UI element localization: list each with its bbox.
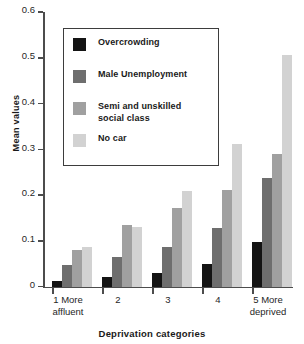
bar[interactable] xyxy=(162,247,172,286)
legend-item-label: Semi and unskilled social class xyxy=(98,101,181,124)
legend-color-swatch xyxy=(73,70,86,83)
bar[interactable] xyxy=(72,250,82,286)
legend-color-swatch xyxy=(73,134,86,147)
y-axis-tick: 0.6 xyxy=(38,11,43,13)
y-axis-tick: 0.2 xyxy=(38,194,43,196)
legend-color-swatch xyxy=(73,102,86,115)
bar[interactable] xyxy=(102,277,112,286)
bar[interactable] xyxy=(232,144,242,286)
bar[interactable] xyxy=(132,227,142,287)
x-axis-title: Deprivation categories xyxy=(0,328,304,339)
y-axis-tick: 0 xyxy=(38,286,43,288)
bar[interactable] xyxy=(52,281,62,286)
bar[interactable] xyxy=(152,273,162,287)
y-axis-tick: 0.1 xyxy=(38,240,43,242)
x-label-line-2: affluent xyxy=(38,306,98,318)
bar[interactable] xyxy=(62,265,72,287)
legend-color-swatch xyxy=(73,38,86,51)
bar[interactable] xyxy=(112,257,122,286)
bar-group xyxy=(252,13,292,287)
y-axis-tick: 0.5 xyxy=(38,57,43,59)
legend-item-label: Male Unemployment xyxy=(98,69,187,81)
bar[interactable] xyxy=(222,190,232,287)
y-axis-tick-label: 0.4 xyxy=(22,96,35,107)
bar[interactable] xyxy=(262,178,272,287)
legend-item-label: No car xyxy=(98,133,127,145)
x-axis-line xyxy=(43,287,293,289)
y-axis-tick-label: 0 xyxy=(30,279,35,290)
x-label-line-2: deprived xyxy=(238,306,298,318)
y-axis-tick-label: 0.5 xyxy=(22,50,35,61)
y-axis-tick: 0.4 xyxy=(38,103,43,105)
bar[interactable] xyxy=(172,208,182,286)
bar[interactable] xyxy=(82,247,92,287)
legend-item[interactable]: Semi and unskilled social class xyxy=(73,101,218,133)
y-axis-tick-label: 0.6 xyxy=(22,4,35,15)
bar[interactable] xyxy=(212,228,222,286)
x-axis-category-label: 5 Moredeprived xyxy=(238,294,298,317)
bar-chart: Mean values 0.60.50.40.30.20.10 1 Moreaf… xyxy=(0,0,304,344)
y-axis-tick: 0.3 xyxy=(38,149,43,151)
y-axis-title: Mean values xyxy=(11,73,21,173)
legend-item[interactable]: Male Unemployment xyxy=(73,69,218,101)
legend-item[interactable]: Overcrowding xyxy=(73,37,218,69)
bar[interactable] xyxy=(282,55,292,286)
y-axis-tick-label: 0.3 xyxy=(22,142,35,153)
legend-item[interactable]: No car xyxy=(73,133,218,165)
y-axis-tick-label: 0.2 xyxy=(22,187,35,198)
x-label-line-1: 5 More xyxy=(238,294,298,306)
bar[interactable] xyxy=(252,242,262,287)
bar[interactable] xyxy=(122,225,132,287)
bar[interactable] xyxy=(272,154,282,287)
bar[interactable] xyxy=(182,191,192,287)
bar[interactable] xyxy=(202,264,212,287)
legend-item-label: Overcrowding xyxy=(98,37,160,49)
chart-legend: OvercrowdingMale UnemploymentSemi and un… xyxy=(63,28,219,166)
y-axis-line xyxy=(43,12,45,288)
y-axis-tick-label: 0.1 xyxy=(22,233,35,244)
